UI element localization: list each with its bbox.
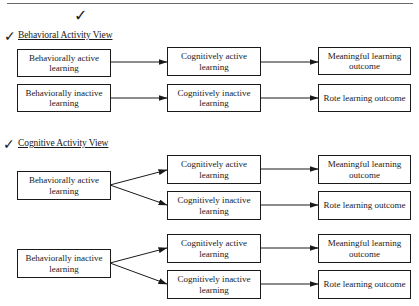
behaviorally-inactive-box: Behaviorally inactive learning: [17, 84, 111, 112]
cognitively-active-box: Cognitively active learning: [167, 47, 261, 76]
cognitively-active-box: Cognitively active learning: [167, 234, 261, 263]
rote-outcome-box: Rote learning outcome: [318, 84, 411, 112]
behaviorally-inactive-box: Behaviorally inactive learning: [17, 249, 111, 278]
behaviorally-active-box: Behaviorally active learning: [17, 49, 111, 77]
behaviorally-active-box: Behaviorally active learning: [17, 171, 111, 200]
arrow: [110, 170, 167, 185]
cognitively-active-box: Cognitively active learning: [167, 155, 261, 184]
rote-outcome-box: Rote learning outcome: [318, 191, 411, 220]
cognitively-inactive-box: Cognitively inactive learning: [167, 191, 261, 220]
cognitively-inactive-box: Cognitively inactive learning: [167, 84, 261, 112]
arrow: [110, 185, 167, 205]
arrow: [110, 248, 167, 263]
meaningful-outcome-box: Meaningful learning outcome: [318, 47, 411, 75]
cognitively-inactive-box: Cognitively inactive learning: [167, 270, 261, 299]
arrow: [110, 263, 167, 284]
meaningful-outcome-box: Meaningful learning outcome: [318, 234, 411, 263]
meaningful-outcome-box: Meaningful learning outcome: [318, 155, 411, 184]
rote-outcome-box: Rote learning outcome: [318, 270, 411, 299]
